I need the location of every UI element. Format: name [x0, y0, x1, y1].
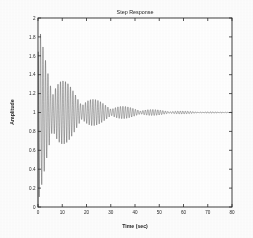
x-tick-label: 30	[108, 210, 114, 215]
x-tick-label: 60	[181, 210, 187, 215]
y-tick-label: 1.6	[29, 54, 36, 59]
step-response-chart: Step Response 01020304050607080 00.20.40…	[0, 0, 253, 238]
x-tick-label: 40	[132, 210, 138, 215]
x-tick-label: 10	[60, 210, 66, 215]
figure-canvas: Step Response 01020304050607080 00.20.40…	[0, 0, 253, 238]
y-tick-label: 0	[33, 205, 36, 210]
y-tick-label: 0.8	[29, 129, 36, 134]
y-tick-label: 0.4	[29, 167, 36, 172]
x-tick-label: 80	[229, 210, 235, 215]
x-axis-label: Time (sec)	[122, 223, 148, 229]
y-axis-label: Amplitude	[9, 99, 15, 124]
plot-area-background	[38, 18, 232, 207]
y-tick-label: 1.8	[29, 35, 36, 40]
x-tick-label: 70	[205, 210, 211, 215]
x-tick-label: 20	[84, 210, 90, 215]
y-tick-label: 2	[33, 16, 36, 21]
y-tick-label: 1	[33, 110, 36, 115]
y-tick-label: 1.2	[29, 91, 36, 96]
y-tick-label: 0.6	[29, 148, 36, 153]
x-tick-label: 0	[37, 210, 40, 215]
y-tick-label: 0.2	[29, 186, 36, 191]
x-tick-label: 50	[157, 210, 163, 215]
y-tick-label: 1.4	[29, 72, 36, 77]
chart-title: Step Response	[117, 9, 154, 15]
